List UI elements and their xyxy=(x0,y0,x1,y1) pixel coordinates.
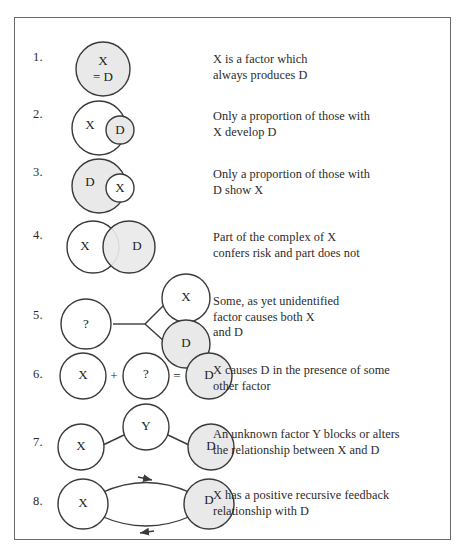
connector-to-x xyxy=(145,304,165,324)
row-description-8: X has a positive recursive feedback rela… xyxy=(213,488,389,519)
feedback-arrow-forward xyxy=(101,483,191,494)
diagram-row-7: 7. X Y D An unknown factor Y blocks or a… xyxy=(15,403,450,471)
node-label-y: Y xyxy=(141,418,151,433)
diagram-row-6: 6. X ? D + = X causes D in the presence … xyxy=(15,345,450,405)
diagram-graphic-2: X D xyxy=(53,99,233,157)
row-number-7: 7. xyxy=(33,435,43,450)
row-description-1: X is a factor which always produces D xyxy=(213,52,308,83)
figure-frame: 1. X = D X is a factor which always prod… xyxy=(14,17,451,540)
feedback-arrow-reverse xyxy=(101,516,191,526)
connector-y-to-d xyxy=(168,435,189,445)
node-label-x: X xyxy=(115,180,125,195)
row-number-4: 4. xyxy=(33,228,43,243)
node-label-x: X xyxy=(78,367,88,382)
row-description-3: Only a proportion of those with D show X xyxy=(213,167,370,198)
node-label-x: X xyxy=(78,495,88,510)
node-label-unknown: ? xyxy=(83,316,89,331)
node-label-d: D xyxy=(132,238,141,253)
row-description-4: Part of the complex of X confers risk an… xyxy=(213,230,360,261)
diagram-row-2: 2. X D Only a proportion of those with X… xyxy=(15,99,450,157)
node-circle-d xyxy=(103,221,155,273)
row-number-3: 3. xyxy=(33,165,43,180)
feedback-arrowhead-reverse xyxy=(140,531,154,533)
row-description-2: Only a proportion of those with X develo… xyxy=(213,109,370,140)
row-number-6: 6. xyxy=(33,367,43,382)
row-number-5: 5. xyxy=(33,308,43,323)
diagram-row-8: 8. X D X has a positive recursive feedba… xyxy=(15,468,450,538)
node-label-x: X xyxy=(98,53,108,68)
node-label-x: X xyxy=(85,117,95,132)
row-number-8: 8. xyxy=(33,494,43,509)
node-label-x: X xyxy=(80,238,90,253)
node-label-equals-d: = D xyxy=(93,69,113,84)
row-description-7: An unknown factor Y blocks or alters the… xyxy=(213,427,400,458)
diagram-row-4: 4. X D Part of the complex of X confers … xyxy=(15,216,450,278)
node-label-d: D xyxy=(85,174,94,189)
diagram-graphic-3: D X xyxy=(53,157,233,215)
diagram-graphic-4: X D xyxy=(53,216,233,278)
row-description-5: Some, as yet unidentified factor causes … xyxy=(213,294,339,341)
diagram-row-1: 1. X = D X is a factor which always prod… xyxy=(15,40,450,98)
node-label-unknown: ? xyxy=(143,366,149,381)
row-description-6: X causes D in the presence of some other… xyxy=(213,363,390,394)
operator-equals: = xyxy=(173,368,180,383)
feedback-arrowhead-forward xyxy=(138,477,152,480)
node-label-d: D xyxy=(115,122,124,137)
operator-plus: + xyxy=(110,368,117,383)
connector-x-to-y xyxy=(103,435,124,445)
node-label-x: X xyxy=(76,438,86,453)
node-label-x: X xyxy=(181,289,191,304)
diagram-row-3: 3. D X Only a proportion of those with D… xyxy=(15,157,450,215)
row-number-1: 1. xyxy=(33,50,43,65)
diagram-graphic-1: X = D xyxy=(53,40,233,98)
row-number-2: 2. xyxy=(33,107,43,122)
